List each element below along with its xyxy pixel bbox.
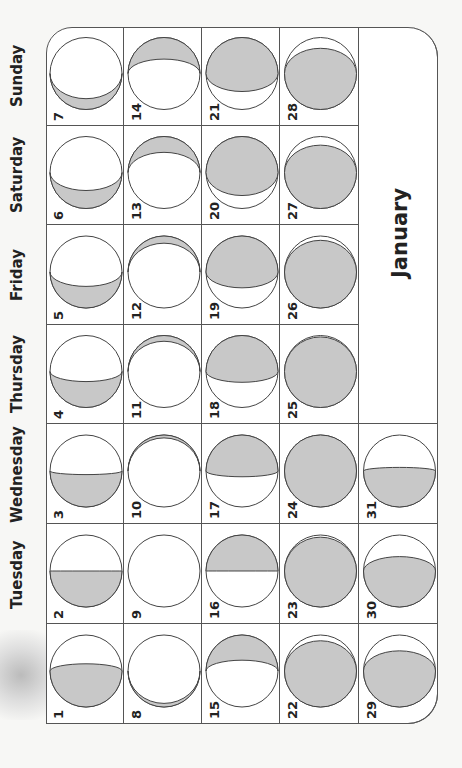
day-cell[interactable]: 7 <box>46 27 124 126</box>
weekday-label: Friday <box>8 249 26 301</box>
day-cell[interactable]: 13 <box>124 126 202 225</box>
day-cell[interactable]: 12 <box>124 225 202 325</box>
day-number: 28 <box>285 103 300 121</box>
day-cell[interactable]: 17 <box>202 424 280 524</box>
day-number: 1 <box>51 710 66 719</box>
day-number: 3 <box>51 510 66 519</box>
day-cell[interactable]: 15 <box>202 624 280 724</box>
month-title: January <box>388 188 412 278</box>
day-number: 13 <box>129 202 144 220</box>
day-cell[interactable]: 28 <box>280 27 359 126</box>
day-number: 7 <box>51 112 66 121</box>
day-cell[interactable]: 31 <box>359 424 438 524</box>
day-number: 4 <box>51 410 66 419</box>
day-cell[interactable]: 3 <box>46 424 124 524</box>
day-number: 20 <box>207 202 222 220</box>
day-number: 25 <box>285 401 300 419</box>
day-cell[interactable]: 11 <box>124 325 202 424</box>
day-number: 30 <box>364 601 379 619</box>
day-cell[interactable]: 16 <box>202 524 280 624</box>
day-cell[interactable]: 2 <box>46 524 124 624</box>
day-number: 22 <box>285 701 300 719</box>
weekday-label: Wednesday <box>8 426 26 523</box>
day-number: 12 <box>129 302 144 320</box>
day-number: 26 <box>285 302 300 320</box>
day-cell[interactable]: 21 <box>202 27 280 126</box>
day-number: 27 <box>285 202 300 220</box>
weekday-label: Sunday <box>8 45 26 107</box>
day-number: 19 <box>207 302 222 320</box>
day-cell[interactable]: 29 <box>359 624 438 724</box>
day-number: 17 <box>207 501 222 519</box>
day-cell[interactable]: 20 <box>202 126 280 225</box>
day-number: 15 <box>207 701 222 719</box>
day-cell[interactable]: 10 <box>124 424 202 524</box>
day-cell[interactable]: 23 <box>280 524 359 624</box>
day-cell[interactable]: 6 <box>46 126 124 225</box>
day-number: 16 <box>207 601 222 619</box>
day-cell[interactable]: 18 <box>202 325 280 424</box>
day-number: 6 <box>51 211 66 220</box>
calendar-grid: 7142128613202751219264111825310172431291… <box>46 27 438 724</box>
day-number: 31 <box>364 501 379 519</box>
day-cell[interactable]: 9 <box>124 524 202 624</box>
day-number: 24 <box>285 501 300 519</box>
day-cell[interactable]: 26 <box>280 225 359 325</box>
day-cell[interactable]: 24 <box>280 424 359 524</box>
day-number: 21 <box>207 103 222 121</box>
day-number: 14 <box>129 103 144 121</box>
calendar-page: SundaySaturdayFridayThursdayWednesdayTue… <box>0 0 462 768</box>
weekday-label: Saturday <box>8 137 26 213</box>
day-cell[interactable]: 14 <box>124 27 202 126</box>
day-number: 29 <box>364 701 379 719</box>
day-number: 2 <box>51 610 66 619</box>
day-cell[interactable]: 4 <box>46 325 124 424</box>
day-cell[interactable]: 25 <box>280 325 359 424</box>
day-cell[interactable]: 8 <box>124 624 202 724</box>
day-number: 23 <box>285 601 300 619</box>
day-cell[interactable]: 30 <box>359 524 438 624</box>
day-number: 9 <box>129 610 144 619</box>
day-cell[interactable]: 1 <box>46 624 124 724</box>
day-cell[interactable]: 27 <box>280 126 359 225</box>
weekday-label: Thursday <box>8 335 26 413</box>
weekday-label: Tuesday <box>8 540 26 609</box>
day-number: 10 <box>129 501 144 519</box>
day-number: 18 <box>207 401 222 419</box>
day-number: 5 <box>51 311 66 320</box>
day-number: 8 <box>129 710 144 719</box>
day-cell[interactable]: 19 <box>202 225 280 325</box>
day-cell[interactable]: 22 <box>280 624 359 724</box>
day-cell[interactable]: 5 <box>46 225 124 325</box>
day-number: 11 <box>129 401 144 419</box>
